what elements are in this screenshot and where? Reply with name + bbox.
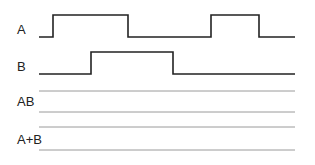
waveform-a xyxy=(39,15,295,37)
signal-label-a: A xyxy=(17,22,26,37)
timing-diagram: AB ABA+B xyxy=(0,0,315,165)
answer-rows: ABA+B xyxy=(17,91,295,150)
signal-waveforms: AB xyxy=(17,15,295,74)
answer-label-ab: AB xyxy=(17,94,34,109)
signal-label-b: B xyxy=(17,59,26,74)
answer-label-a-plus-b: A+B xyxy=(17,132,42,147)
waveform-b xyxy=(39,52,295,74)
